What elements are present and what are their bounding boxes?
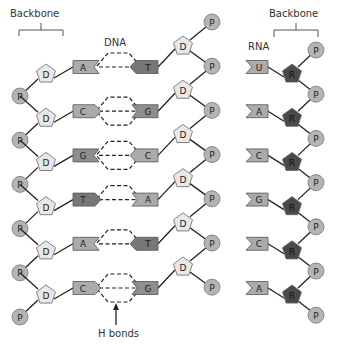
glycosidic-bond [268, 111, 284, 121]
h-bonds [97, 186, 140, 200]
glycosidic-bond [158, 49, 175, 67]
h-bond [97, 112, 140, 125]
phosphate-label: P [313, 222, 319, 232]
deoxyribose: D [174, 124, 193, 142]
phosphate: P [308, 42, 324, 58]
backbone-bond [20, 184, 38, 200]
h-bond [97, 289, 140, 302]
base-G: G [132, 105, 158, 118]
deoxyribose-label: D [43, 291, 50, 301]
deoxyribose: D [37, 285, 56, 303]
rna-base-U: U [246, 61, 268, 74]
base-T: T [130, 61, 158, 74]
deoxyribose: D [37, 108, 56, 126]
glycosidic-bond [54, 67, 73, 78]
deoxyribose-label: D [180, 42, 187, 52]
phosphate: P [308, 307, 324, 323]
h-bond [97, 274, 140, 287]
base-label: T [144, 239, 151, 249]
ribose-label: R [289, 291, 295, 301]
ribose-label: R [289, 158, 295, 168]
rna-nucleotide: CR [246, 227, 316, 271]
phosphate-label: P [209, 194, 215, 204]
base-shape [73, 282, 101, 295]
deoxyribose-label: D [43, 203, 50, 213]
backbone-right-label: Backbone [269, 8, 318, 19]
phosphate-label: P [313, 134, 319, 144]
rna-nucleotide: GR [246, 183, 316, 227]
phosphate-label: P [209, 239, 215, 249]
deoxyribose: D [37, 241, 56, 259]
deoxyribose: D [174, 169, 193, 187]
phosphate: P [308, 219, 324, 235]
rna-nucleotide: AR [246, 94, 316, 138]
backbone-bond [20, 96, 38, 112]
base-label: C [145, 151, 151, 161]
rna-base-C: C [246, 149, 268, 162]
base-shape [130, 237, 158, 250]
glycosidic-bond [268, 67, 284, 77]
backbone-right-bracket [274, 23, 318, 37]
deoxyribose: D [174, 213, 193, 231]
base-C: C [73, 282, 101, 295]
ribose-label: R [289, 70, 295, 80]
backbone-bond [20, 140, 38, 156]
rna-label: RNA [248, 41, 269, 52]
h-bonds [97, 97, 140, 125]
base-label: U [256, 63, 263, 73]
h-bonds-label: H bonds [98, 328, 139, 339]
base-shape [73, 193, 101, 206]
base-T: T [130, 237, 158, 250]
base-label: C [256, 151, 262, 161]
glycosidic-bond [54, 200, 73, 211]
rna-nucleotide: AR [246, 271, 316, 315]
glycosidic-bond [268, 244, 284, 254]
rna-nucleotide: CR [246, 138, 316, 182]
base-C: C [130, 149, 158, 162]
phosphate-label: P [313, 46, 319, 56]
h-bonds [97, 274, 140, 302]
phosphate-label: P [313, 311, 319, 321]
base-label: A [80, 63, 87, 73]
base-C: C [73, 105, 101, 118]
deoxyribose: D [174, 257, 193, 275]
arrowhead-icon [113, 303, 119, 310]
base-A: A [73, 61, 99, 74]
phosphate: P [204, 235, 220, 251]
backbone-bond [20, 273, 38, 289]
deoxyribose: D [37, 152, 56, 170]
glycosidic-bond [54, 155, 73, 166]
glycosidic-bond [54, 288, 73, 299]
base-label: T [79, 195, 86, 205]
glycosidic-bond [158, 182, 175, 200]
deoxyribose-label: D [180, 263, 187, 273]
glycosidic-bond [54, 111, 73, 122]
phosphate-label: P [313, 90, 319, 100]
dna-label: DNA [104, 37, 126, 48]
rna-base-A: A [246, 105, 268, 118]
glycosidic-bond [54, 244, 73, 255]
phosphate: P [308, 86, 324, 102]
phosphate: P [12, 309, 28, 325]
base-label: C [256, 239, 262, 249]
base-A: A [132, 193, 158, 206]
backbone-left-bracket [19, 23, 63, 36]
phosphate-label: P [209, 283, 215, 293]
glycosidic-bond [158, 226, 175, 244]
deoxyribose-label: D [43, 70, 50, 80]
h-bond [97, 97, 140, 110]
ribose-label: R [289, 114, 295, 124]
deoxyribose-label: D [43, 114, 50, 124]
phosphate: P [204, 102, 220, 118]
phosphate: P [308, 175, 324, 191]
phosphate-label: P [17, 313, 23, 323]
base-T: T [73, 193, 101, 206]
rna-nucleotide: UR [246, 50, 316, 94]
rna-base-C: C [246, 237, 268, 250]
base-label: G [145, 107, 152, 117]
base-shape [130, 61, 158, 74]
base-label: G [256, 195, 263, 205]
base-label: G [145, 284, 152, 294]
phosphate-label: P [209, 106, 215, 116]
rna-strand: URARCRGRCRARPPPPPPP [246, 42, 324, 323]
